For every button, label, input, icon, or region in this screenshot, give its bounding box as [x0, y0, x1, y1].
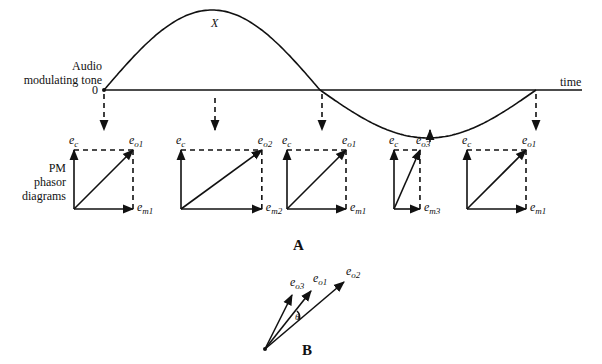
- part-b-vector-diagram: eo3eo1eo2θ: [263, 264, 361, 351]
- output-label: eo1: [342, 133, 356, 149]
- output-label: eo2: [258, 133, 273, 149]
- audio-label-line1: Audio: [72, 59, 102, 73]
- audio-label-line2: modulating tone: [24, 73, 102, 87]
- output-vector: [287, 150, 346, 209]
- output-vector: [74, 150, 133, 209]
- vector-label-o3: eo3: [290, 275, 305, 291]
- carrier-label: ec: [69, 133, 78, 149]
- phasor-diagram: eceo1em1: [462, 133, 546, 216]
- vector-o1: [265, 291, 311, 349]
- phasor-diagrams: eceo1em1eceo2em2eceo1em1eceo3em3eceo1em1: [69, 133, 546, 216]
- carrier-label: ec: [389, 133, 398, 149]
- mod-label: em1: [137, 200, 153, 216]
- time-axis-label: time: [560, 75, 581, 89]
- output-vector: [394, 150, 420, 209]
- vector-origin: [263, 347, 267, 351]
- output-label: eo1: [522, 133, 536, 149]
- mod-label: em1: [530, 200, 546, 216]
- vector-o2: [265, 282, 344, 349]
- sample-arrows: [104, 94, 536, 142]
- part-b-label: B: [302, 342, 312, 358]
- vector-label-o2: eo2: [346, 264, 361, 280]
- vector-label-o1: eo1: [313, 271, 327, 287]
- carrier-label: ec: [462, 133, 471, 149]
- vector-o3: [265, 295, 292, 349]
- angle-theta-label: θ: [295, 312, 300, 322]
- phasor-diagram: eceo2em2: [176, 133, 283, 216]
- mod-label: em2: [266, 200, 283, 216]
- pm-label-line3: diagrams: [22, 189, 66, 203]
- peak-label-x: X: [210, 16, 219, 30]
- pm-label-line1: PM: [49, 161, 67, 175]
- output-vector: [181, 150, 262, 209]
- carrier-label: ec: [282, 133, 291, 149]
- pm-label-line2: phasor: [34, 175, 66, 189]
- pm-phasor-figure: time 0 Audio modulating tone X PM phasor…: [0, 0, 602, 364]
- phasor-diagram: eceo1em1: [69, 133, 153, 216]
- mod-label: em1: [350, 200, 366, 216]
- output-vector: [467, 150, 526, 209]
- part-a-label: A: [293, 237, 304, 253]
- output-label: eo1: [129, 133, 143, 149]
- mod-label: em3: [424, 200, 441, 216]
- output-label: eo3: [416, 133, 431, 149]
- phasor-diagram: eceo3em3: [389, 133, 441, 216]
- carrier-label: ec: [176, 133, 185, 149]
- audio-modulating-sine-wave: [104, 10, 536, 138]
- phasor-diagram: eceo1em1: [282, 133, 366, 216]
